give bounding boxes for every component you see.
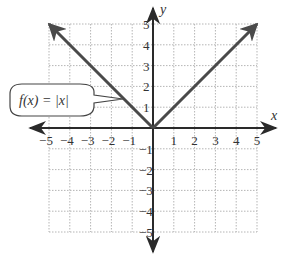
y-tick-label: −2 — [139, 163, 153, 178]
x-tick-label: 1 — [171, 133, 178, 148]
y-axis-label: y — [158, 2, 167, 17]
y-tick-label: −5 — [139, 225, 153, 240]
x-tick-label: 2 — [191, 133, 198, 148]
y-tick-label: 5 — [143, 17, 150, 32]
function-ray — [153, 24, 257, 128]
x-tick-label: 3 — [212, 133, 219, 148]
function-callout: f(x) = |x| — [10, 84, 123, 116]
y-tick-label: 3 — [143, 59, 150, 74]
y-tick-label: 2 — [143, 79, 150, 94]
x-tick-label: 5 — [254, 133, 261, 148]
y-tick-label: 1 — [143, 100, 150, 115]
y-tick-label: −1 — [139, 142, 153, 157]
y-tick-label: 4 — [143, 38, 150, 53]
x-tick-label: −3 — [81, 133, 95, 148]
y-tick-label: −3 — [139, 183, 153, 198]
x-tick-label: −1 — [122, 133, 136, 148]
y-tick-label: −4 — [139, 204, 153, 219]
x-tick-label: −4 — [60, 133, 74, 148]
absolute-value-graph: x y −5−4−3−2−112345 54321−1−2−3−4−5 f(x)… — [0, 0, 292, 264]
x-tick-label: −2 — [101, 133, 115, 148]
x-tick-label: −5 — [39, 133, 53, 148]
x-tick-label: 4 — [233, 133, 240, 148]
x-axis-label: x — [270, 108, 278, 123]
function-label: f(x) = |x| — [19, 93, 69, 109]
